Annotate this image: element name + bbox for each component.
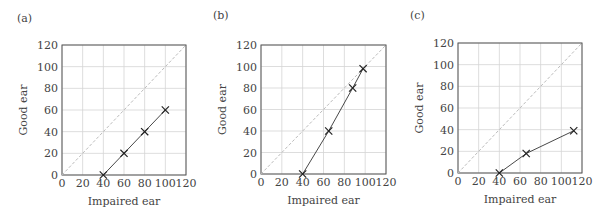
panel-label: (c)	[410, 9, 425, 22]
svg-text:120: 120	[572, 175, 593, 188]
svg-text:20: 20	[275, 176, 289, 189]
svg-text:40: 40	[243, 125, 257, 138]
svg-text:0: 0	[447, 167, 454, 180]
y-axis-label: Good ear	[413, 82, 426, 134]
y-axis-label: Good ear	[17, 84, 30, 136]
svg-text:100: 100	[236, 61, 257, 74]
svg-text:0: 0	[455, 175, 462, 188]
panel-label: (b)	[213, 9, 229, 22]
svg-text:40: 40	[492, 175, 506, 188]
chart-panel-b: (b)020406080100120020406080100120Impaire…	[199, 0, 403, 219]
svg-text:40: 40	[296, 176, 310, 189]
svg-text:60: 60	[243, 104, 257, 117]
svg-text:100: 100	[355, 176, 376, 189]
svg-text:40: 40	[96, 177, 110, 190]
x-axis-label: Impaired ear	[287, 194, 360, 207]
svg-text:20: 20	[76, 177, 90, 190]
svg-text:40: 40	[44, 126, 58, 139]
svg-text:80: 80	[337, 176, 351, 189]
svg-text:20: 20	[440, 145, 454, 158]
panel-label: (a)	[17, 12, 32, 25]
x-marker-icon	[570, 127, 577, 134]
svg-text:100: 100	[433, 59, 454, 72]
svg-text:80: 80	[138, 177, 152, 190]
svg-text:100: 100	[37, 61, 58, 74]
y-tick-labels: 020406080100120	[37, 39, 58, 182]
svg-text:20: 20	[44, 147, 58, 160]
svg-text:120: 120	[433, 37, 454, 50]
svg-text:120: 120	[376, 176, 397, 189]
svg-text:60: 60	[317, 176, 331, 189]
svg-text:0: 0	[51, 169, 58, 182]
svg-text:120: 120	[176, 177, 197, 190]
x-tick-labels: 020406080100120	[59, 177, 197, 190]
svg-text:100: 100	[155, 177, 176, 190]
x-axis-label: Impaired ear	[484, 193, 557, 206]
svg-text:80: 80	[44, 82, 58, 95]
svg-text:80: 80	[243, 82, 257, 95]
y-axis-label: Good ear	[216, 83, 229, 135]
y-tick-labels: 020406080100120	[236, 39, 257, 181]
svg-text:40: 40	[440, 124, 454, 137]
svg-text:60: 60	[513, 175, 527, 188]
x-axis-label: Impaired ear	[88, 195, 161, 208]
chart-panel-c: (c)020406080100120020406080100120Impaire…	[396, 0, 600, 219]
svg-text:60: 60	[117, 177, 131, 190]
svg-text:0: 0	[250, 168, 257, 181]
svg-text:20: 20	[243, 147, 257, 160]
data-line	[303, 69, 363, 174]
chart-panel-a: (a)020406080100120020406080100120Impaire…	[0, 0, 204, 219]
svg-text:60: 60	[44, 104, 58, 117]
svg-text:60: 60	[440, 102, 454, 115]
data-line	[103, 110, 165, 175]
data-line	[499, 131, 573, 173]
svg-text:120: 120	[236, 39, 257, 52]
x-tick-labels: 020406080100120	[258, 176, 397, 189]
svg-text:100: 100	[551, 175, 572, 188]
svg-text:0: 0	[59, 177, 66, 190]
y-tick-labels: 020406080100120	[433, 37, 454, 180]
svg-text:120: 120	[37, 39, 58, 52]
x-tick-labels: 020406080100120	[455, 175, 593, 188]
svg-text:80: 80	[440, 80, 454, 93]
svg-text:80: 80	[534, 175, 548, 188]
svg-text:0: 0	[258, 176, 265, 189]
svg-text:20: 20	[472, 175, 486, 188]
